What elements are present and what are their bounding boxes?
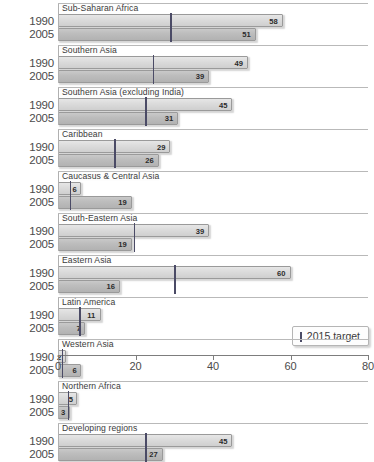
bar-value: 27 [149,450,157,459]
bar-value: 11 [87,311,95,320]
region-label: Caribbean [60,130,103,139]
bar-2005 [58,322,85,335]
category-axis-segment [58,3,59,41]
category-axis-segment [58,381,59,419]
x-tick-label: 0 [55,360,61,372]
year-label: 2005 [0,238,54,250]
target-marker [62,349,63,378]
bar-2005 [58,112,178,125]
bar-2005 [58,154,159,167]
target-marker [145,97,146,126]
target-marker-icon [300,332,301,342]
region-label: Northern Africa [60,382,121,391]
bar-2005 [58,448,163,461]
region-label: Developing regions [60,424,137,433]
category-axis-segment [58,297,59,335]
year-label: 1990 [0,309,54,321]
category-axis-segment [58,87,59,125]
bar-value: 6 [73,185,77,194]
x-tick-label: 80 [362,360,374,372]
category-axis-segment [58,45,59,83]
year-label: 2005 [0,112,54,124]
x-tick-label: 60 [285,360,297,372]
bar-value: 45 [219,101,227,110]
year-label: 2005 [0,28,54,40]
target-marker [79,307,80,336]
bar-value: 51 [242,30,250,39]
year-label: 2005 [0,406,54,418]
category-axis-segment [58,129,59,167]
bar-value: 5 [69,395,73,404]
year-label: 2005 [0,322,54,334]
region-label: Southern Asia (excluding India) [60,88,184,97]
bar-value: 45 [219,437,227,446]
year-label: 2005 [0,154,54,166]
x-tick-label: 20 [130,360,142,372]
category-axis-segment [58,171,59,209]
year-label: 1990 [0,57,54,69]
target-marker [170,13,171,42]
category-axis-segment [58,213,59,251]
bar-value: 16 [107,282,115,291]
year-label: 1990 [0,267,54,279]
year-label: 1990 [0,99,54,111]
region-label: Sub-Saharan Africa [60,4,138,13]
year-label: 1990 [0,435,54,447]
bar-value: 39 [196,72,204,81]
bar-value: 58 [269,17,277,26]
region-label: Caucasus & Central Asia [60,172,159,181]
year-label: 2005 [0,70,54,82]
year-label: 1990 [0,183,54,195]
year-label: 1990 [0,225,54,237]
region-label: Latin America [60,298,115,307]
region-label: Southern Asia [60,46,117,55]
category-axis-segment [58,255,59,293]
region-label: Eastern Asia [60,256,111,265]
bar-value: 39 [196,227,204,236]
target-marker [68,391,69,420]
group-separator [58,129,368,130]
region-label: South-Eastern Asia [60,214,137,223]
bar-2005 [58,70,209,83]
target-marker [114,139,115,168]
year-label: 1990 [0,351,54,363]
target-marker [153,55,154,84]
target-marker [134,223,135,252]
target-marker [70,181,71,210]
bar-value: 19 [118,198,126,207]
year-label: 2005 [0,280,54,292]
year-label: 1990 [0,15,54,27]
x-tick-label: 40 [207,360,219,372]
bar-value: 6 [73,366,77,375]
bar-value: 19 [118,240,126,249]
target-marker [145,433,146,462]
year-label: 1990 [0,393,54,405]
legend-label: 2015 target [307,330,360,342]
bar-value: 49 [234,59,242,68]
year-label: 2005 [0,448,54,460]
bar-value: 29 [157,143,165,152]
bar-value: 60 [277,269,285,278]
bar-2005 [58,28,256,41]
year-label: 2005 [0,364,54,376]
bar-value: 3 [61,408,65,417]
category-axis-segment [58,423,59,461]
bar-value: 31 [165,114,173,123]
target-marker [174,265,175,294]
legend: 2015 target [292,326,369,346]
year-label: 1990 [0,141,54,153]
bar-value: 26 [145,156,153,165]
year-label: 2005 [0,196,54,208]
region-label: Western Asia [60,340,114,349]
